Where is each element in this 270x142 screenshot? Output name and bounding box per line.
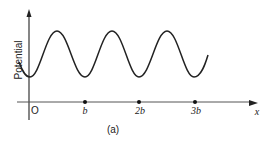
x-axis-label: x [254,106,260,117]
tick-label-3b: 3b [190,105,201,116]
y-axis-arrow-icon [27,9,32,17]
tick-label-2b: 2b [135,105,145,116]
tick-dot-b [83,100,87,104]
origin-label: O [31,105,39,116]
figure-caption: (a) [107,124,119,135]
tick-dot-3b [193,100,197,104]
tick-label-b: b [83,105,88,116]
potential-curve [19,31,208,77]
y-axis-label: Potential [13,41,24,80]
potential-diagram: Potential O b 2b 3b x (a) [0,0,270,142]
tick-dot-2b [137,100,141,104]
